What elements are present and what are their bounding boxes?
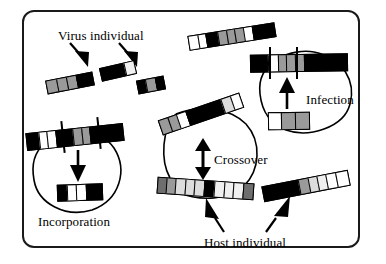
infection-virus-fragment — [268, 112, 310, 131]
incorporation-arrow-down — [68, 150, 88, 182]
label-infection: Infection — [306, 92, 354, 108]
infection-arrow-up — [277, 77, 297, 109]
infection-tick-2 — [296, 47, 298, 79]
label-host-individual: Host individual — [204, 235, 286, 251]
host-arrow-left — [202, 198, 230, 232]
diagram-canvas: Virus individual — [0, 0, 386, 264]
label-incorporation: Incorporation — [38, 214, 110, 230]
infection-tick-1 — [269, 47, 271, 79]
host-arrow-right — [264, 196, 296, 232]
infection-host-bar — [250, 53, 348, 73]
virus-arrow-left — [68, 42, 98, 70]
incorporation-virus-fragment — [57, 183, 104, 202]
crossover-arrow-double — [192, 138, 214, 180]
label-crossover: Crossover — [214, 152, 268, 168]
